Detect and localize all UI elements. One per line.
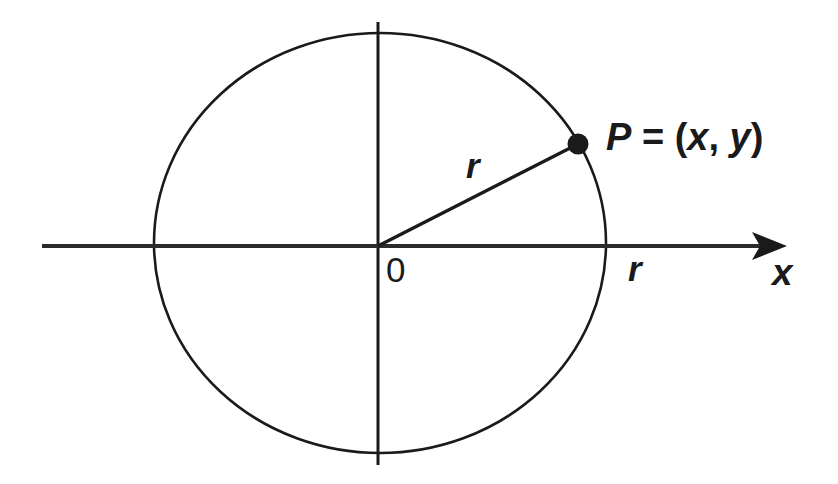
- point-p-coord-y: y: [730, 116, 751, 158]
- point-p-equals: = (: [631, 116, 687, 158]
- circle-diagram-svg: [0, 0, 838, 484]
- figure-canvas: r 0 r x P = (x, y): [0, 0, 838, 484]
- circle-shape: [154, 33, 606, 453]
- point-p-label: P = (x, y): [606, 118, 763, 156]
- origin-label: 0: [386, 252, 405, 287]
- x-axis-label: x: [772, 254, 793, 291]
- x-intercept-label: r: [628, 251, 642, 286]
- point-p-marker: [568, 134, 589, 155]
- point-p-letter: P: [606, 116, 631, 158]
- point-p-close-paren: ): [751, 116, 764, 158]
- point-p-comma: ,: [708, 116, 729, 158]
- point-p-coord-x: x: [687, 116, 708, 158]
- radius-label: r: [466, 148, 480, 183]
